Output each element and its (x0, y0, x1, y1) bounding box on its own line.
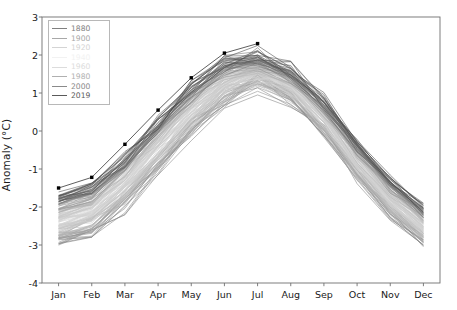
legend-label-1900: 1900 (71, 35, 90, 43)
legend-item-2000[interactable]: 2000 (52, 82, 107, 92)
legend-item-2019[interactable]: 2019 (52, 91, 107, 101)
legend-label-1880: 1880 (71, 25, 90, 33)
x-tick-jan: Jan (51, 289, 66, 300)
y-axis-label: Anomaly (°C) (0, 0, 16, 310)
y-tick-1: 1 (16, 88, 38, 99)
spaghetti-lines-group (59, 46, 424, 247)
legend-swatch-1940 (52, 57, 67, 58)
x-tick-jun: Jun (217, 289, 232, 300)
y-tick-0: 0 (16, 126, 38, 137)
y-tick--3: -3 (16, 240, 38, 251)
legend-label-1960: 1960 (71, 63, 90, 71)
legend-item-1980[interactable]: 1980 (52, 72, 107, 82)
legend-swatch-2000 (52, 86, 67, 87)
legend-swatch-1920 (52, 47, 67, 48)
legend-item-1940[interactable]: 1940 (52, 53, 107, 63)
legend-item-1900[interactable]: 1900 (52, 34, 107, 44)
chart-legend[interactable]: 18801900192019401960198020002019 (48, 20, 110, 105)
legend-swatch-1900 (52, 38, 67, 39)
x-tick-sep: Sep (315, 289, 333, 300)
x-tick-feb: Feb (83, 289, 100, 300)
x-tick-mar: Mar (116, 289, 134, 300)
y-tick--1: -1 (16, 164, 38, 175)
legend-label-1980: 1980 (71, 73, 90, 81)
legend-swatch-2019 (52, 95, 67, 96)
y-tick--4: -4 (16, 278, 38, 289)
legend-swatch-1960 (52, 67, 67, 68)
y-tick-2: 2 (16, 50, 38, 61)
legend-label-1940: 1940 (71, 54, 90, 62)
legend-item-1920[interactable]: 1920 (52, 43, 107, 53)
x-tick-apr: Apr (150, 289, 166, 300)
legend-swatch-1980 (52, 76, 67, 77)
y-tick-3: 3 (16, 12, 38, 23)
x-tick-oct: Oct (349, 289, 365, 300)
legend-item-1960[interactable]: 1960 (52, 62, 107, 72)
x-tick-aug: Aug (281, 289, 300, 300)
legend-swatch-1880 (52, 28, 67, 29)
y-tick--2: -2 (16, 202, 38, 213)
legend-label-2019: 2019 (71, 92, 90, 100)
legend-item-1880[interactable]: 1880 (52, 24, 107, 34)
x-tick-nov: Nov (381, 289, 400, 300)
legend-label-1920: 1920 (71, 44, 90, 52)
figure-canvas: Anomaly (°C) JanFebMarAprMayJunJulAugSep… (0, 0, 457, 310)
x-tick-may: May (181, 289, 201, 300)
legend-label-2000: 2000 (71, 83, 90, 91)
x-tick-jul: Jul (252, 289, 263, 300)
x-tick-dec: Dec (414, 289, 432, 300)
